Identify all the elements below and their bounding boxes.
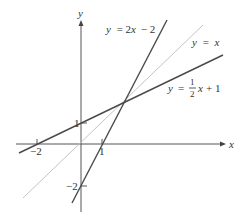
svg-text:y = x: y = x: [191, 36, 220, 48]
x-axis-arrow-icon: [220, 142, 226, 147]
axes: [16, 20, 226, 212]
svg-text:y = 2x − 2: y = 2x − 2: [105, 23, 155, 35]
y-axis-arrow-icon: [79, 20, 84, 26]
eq1-x: x: [130, 23, 136, 35]
x-axis-label: x: [228, 138, 234, 150]
ticks: [37, 123, 102, 186]
x-tick-label-neg2: −2: [30, 145, 42, 157]
eq2-y: y: [191, 36, 197, 48]
line-y-equals-x: [23, 25, 203, 198]
label-y-equals-2x-minus-2: y = 2x − 2: [105, 23, 155, 35]
chart-canvas: y x −2 1 1 −2 y = 2x − 2 y = x y = 1 2 x…: [0, 0, 245, 218]
eq3-numerator: 1: [190, 77, 195, 87]
eq3-x: x: [197, 82, 203, 94]
y-axis-label: y: [77, 7, 83, 19]
x-tick-label-1: 1: [99, 145, 105, 157]
eq1-eq: = 2: [117, 23, 131, 35]
eq3-denominator: 2: [190, 89, 195, 99]
eq3-eq: =: [178, 82, 184, 94]
y-tick-label-neg2: −2: [66, 180, 78, 192]
label-y-equals-half-x-plus-1: y = 1 2 x + 1: [167, 77, 220, 99]
line-y-equals-half-x-plus-1: [19, 55, 223, 153]
eq2-eq: =: [203, 36, 209, 48]
line-y-equals-2x-minus-2: [72, 20, 167, 203]
y-tick-label-1: 1: [74, 117, 80, 129]
eq2-x: x: [214, 36, 220, 48]
eq1-y: y: [105, 23, 111, 35]
eq1-rest: − 2: [141, 23, 155, 35]
eq3-y: y: [167, 82, 173, 94]
label-y-equals-x: y = x: [191, 36, 220, 48]
eq3-rest: + 1: [206, 82, 220, 94]
